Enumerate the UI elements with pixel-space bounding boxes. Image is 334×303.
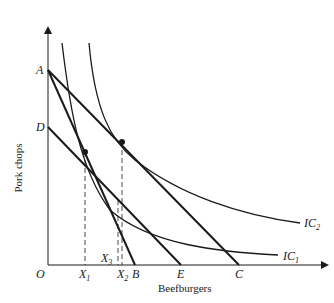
- curve-label-ic2: IC2: [303, 216, 320, 232]
- x-axis-title: Beefburgers: [158, 282, 212, 294]
- origin-label: O: [36, 267, 45, 281]
- indifference-curve-ic2: [89, 43, 300, 223]
- point-label-c: C: [235, 267, 244, 281]
- point-label-x1: X1: [78, 267, 90, 283]
- budget-line-de: [48, 127, 181, 265]
- indifference-curve-ic1: [62, 43, 278, 255]
- point-label-a: A: [35, 63, 44, 77]
- tangency-point-ac-ic2: [119, 139, 125, 145]
- point-label-e: E: [176, 267, 185, 281]
- indifference-diagram: A D O X1 X3 X2 B E C IC1 IC2 Beefburgers…: [0, 0, 334, 303]
- point-label-d: D: [35, 120, 45, 134]
- point-label-x3: X3: [100, 251, 112, 267]
- point-label-b: B: [132, 267, 140, 281]
- point-label-x2: X2: [116, 267, 128, 283]
- curve-label-ic1: IC1: [282, 249, 299, 265]
- tangency-point-ab-ic1: [82, 149, 88, 155]
- y-axis-title: Pork chops: [12, 143, 24, 192]
- budget-line-ac: [48, 70, 239, 265]
